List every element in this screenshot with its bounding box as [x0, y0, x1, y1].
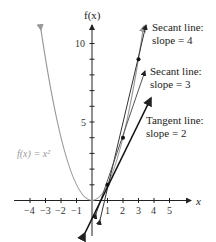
annotation-secant-4: Secant line: slope = 4 — [152, 21, 204, 46]
annotation-tangent-2: Tangent line: slope = 2 — [146, 114, 204, 139]
curve-label: f(x) = x² — [17, 148, 51, 160]
svg-text:slope = 3: slope = 3 — [150, 78, 191, 90]
point-1-1 — [106, 183, 110, 187]
point-3-9 — [137, 57, 141, 61]
svg-text:3: 3 — [136, 205, 141, 216]
tangent-secant-diagram: f(x) x 10 5 −4 −3 −2 −1 1 2 3 4 5 f(x) =… — [0, 0, 216, 242]
svg-text:−2: −2 — [55, 205, 66, 216]
svg-text:Tangent line:: Tangent line: — [146, 114, 204, 126]
y-tick-5: 5 — [81, 117, 86, 128]
svg-text:−3: −3 — [40, 205, 51, 216]
svg-text:4: 4 — [151, 205, 156, 216]
annotation-secant-3: Secant line: slope = 3 — [150, 65, 202, 90]
svg-text:5: 5 — [167, 205, 172, 216]
svg-text:slope = 4: slope = 4 — [152, 34, 193, 46]
x-axis-label: x — [195, 195, 201, 207]
secant-line-slope-3 — [96, 71, 145, 214]
svg-text:Secant line:: Secant line: — [150, 65, 202, 77]
svg-text:1: 1 — [105, 205, 110, 216]
y-axis-label: f(x) — [84, 9, 101, 22]
svg-text:−1: −1 — [71, 205, 82, 216]
svg-text:slope = 2: slope = 2 — [146, 127, 186, 139]
svg-text:2: 2 — [120, 205, 125, 216]
svg-text:Secant line:: Secant line: — [152, 21, 204, 33]
tangent-line-slope-2 — [85, 98, 151, 233]
svg-text:−4: −4 — [24, 205, 35, 216]
y-tick-10: 10 — [75, 38, 85, 49]
point-2-4 — [121, 136, 125, 140]
